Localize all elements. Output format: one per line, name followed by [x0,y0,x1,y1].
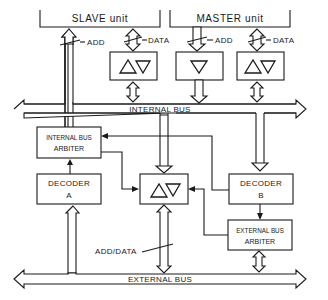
internal-bus-label: INTERNAL BUS [129,105,191,114]
decoder-a: DECODER A [37,174,101,204]
external-bus-label: EXTERNAL BUS [128,275,192,284]
master-unit-label: MASTER unit [196,13,263,24]
decoder-b-to-external-arbiter [257,204,263,220]
master-unit: MASTER unit [170,10,290,27]
master-add-label: ADD [215,36,233,45]
master-data-path: DATA [237,29,295,102]
decoder-a-label-line2: A [66,191,72,200]
slave-data-label: DATA [148,36,170,45]
decoder-a-to-arbiter [67,159,73,174]
external-arbiter-label-line2: ARBITER [245,238,275,245]
internal-bus-arbiter: INTERNAL BUS ARBITER [37,127,101,158]
bus-architecture-diagram: SLAVE unit MASTER unit ADD DATA ADD [0,0,328,300]
decoder-b: DECODER B [229,174,293,204]
external-bus: EXTERNAL BUS [14,270,306,288]
external-arbiter-label-line1: EXTERNAL BUS [236,227,284,234]
decoder-b-label-line1: DECODER [240,179,282,188]
internal-to-decoder-b [252,113,268,171]
master-add-buffer [176,52,223,80]
decoder-a-to-external-bus [66,206,79,273]
slave-add-label: ADD [87,38,105,47]
internal-arbiter-to-bridge [101,152,139,192]
external-arbiter-to-bridge [188,186,228,235]
internal-arbiter-label-line2: ARBITER [54,145,84,152]
master-data-label: DATA [273,36,295,45]
slave-unit-label: SLAVE unit [72,13,128,24]
bridge-buffer [140,174,188,204]
internal-to-bridge [156,113,172,173]
master-data-buffer [237,52,284,80]
external-bus-arbiter: EXTERNAL BUS ARBITER [228,220,292,250]
slave-data-path: DATA [110,29,170,102]
slave-unit: SLAVE unit [40,10,160,27]
internal-arbiter-label-line1: INTERNAL BUS [46,134,92,141]
add-data-label: ADD/DATA [95,247,137,256]
decoder-a-label-line1: DECODER [48,179,90,188]
external-arbiter-to-bus [253,251,265,272]
decoder-b-label-line2: B [258,191,264,200]
slave-data-buffer [110,52,157,80]
master-add-path: ADD [176,27,233,103]
bridge-to-external-bus: ADD/DATA [95,205,173,273]
